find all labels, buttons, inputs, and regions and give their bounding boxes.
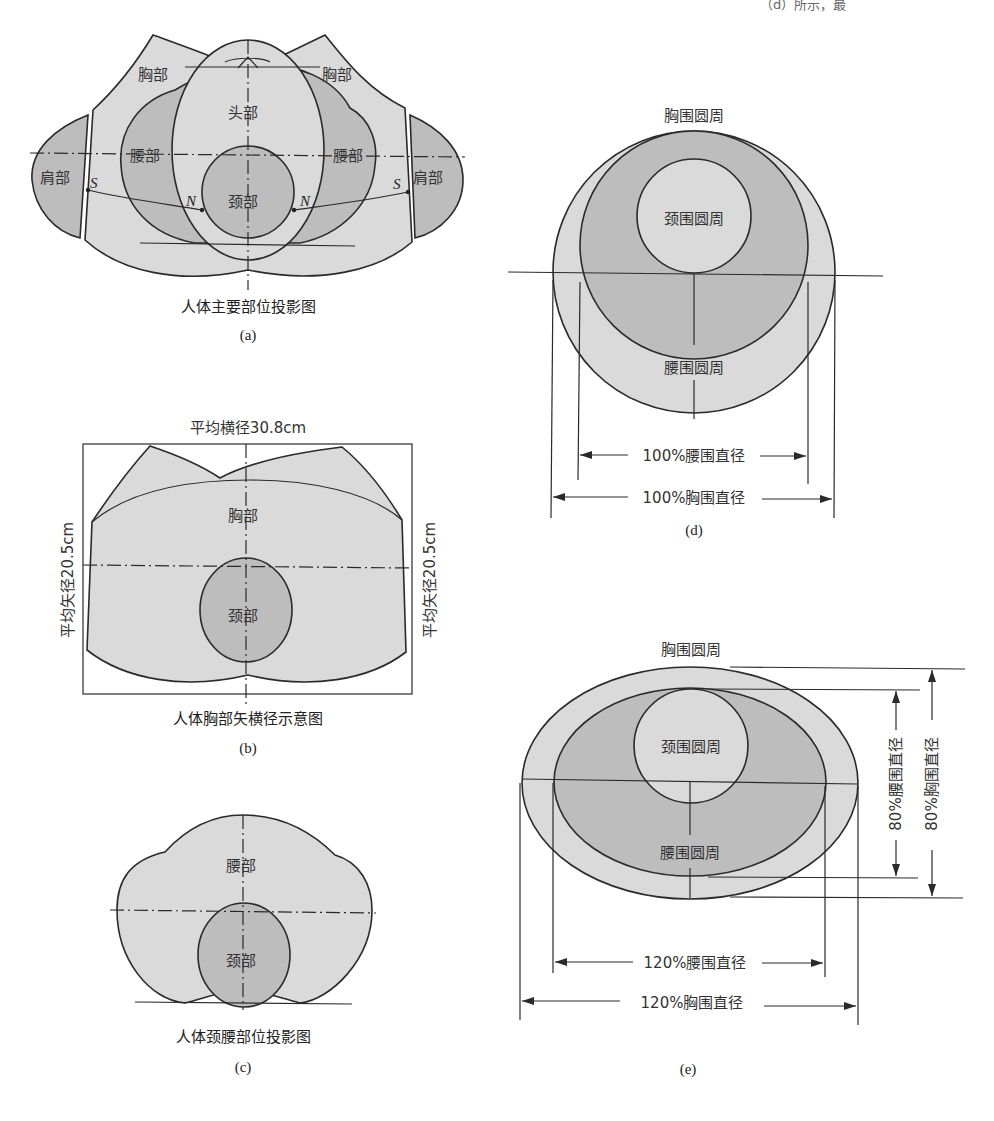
figure-d-circle-model: 胸围圆周 颈围圆周 腰围圆周 100%腰围直径 100%胸围直径 (d) <box>508 107 883 539</box>
tag-e: (e) <box>680 1061 697 1078</box>
label-waist-right: 腰部 <box>333 147 363 165</box>
label-chest-diameter: 100%胸围直径 <box>643 489 746 507</box>
label-avg-sagittal-left: 平均矢径20.5cm <box>59 522 77 638</box>
label-neck: 颈部 <box>228 193 258 211</box>
label-waist-h-diameter: 120%腰围直径 <box>644 954 747 972</box>
label-waist-circle: 腰围圆周 <box>660 844 720 862</box>
label-chest: 胸部 <box>228 507 258 525</box>
figure-a-body-projection: 胸部 胸部 头部 腰部 腰部 肩部 肩部 颈部 S S N N 人体主要部位投影… <box>30 35 465 344</box>
tag-a: (a) <box>240 327 257 344</box>
label-point-s-right: S <box>393 176 401 192</box>
figure-b-chest-diameters: 平均横径30.8cm 平均矢径20.5cm 平均矢径20.5cm 胸部 颈部 人… <box>59 419 439 757</box>
figure-canvas: 胸部 胸部 头部 腰部 腰部 肩部 肩部 颈部 S S N N 人体主要部位投影… <box>0 0 994 1121</box>
label-waist-circle: 腰围圆周 <box>664 359 724 377</box>
label-point-n-left: N <box>185 193 197 209</box>
caption-c: 人体颈腰部位投影图 <box>176 1028 311 1046</box>
label-point-s-left: S <box>90 175 98 191</box>
label-waist-left: 腰部 <box>130 147 160 165</box>
label-avg-transverse-diameter: 平均横径30.8cm <box>190 419 306 437</box>
label-chest-left: 胸部 <box>138 66 168 84</box>
caption-b: 人体胸部矢横径示意图 <box>173 710 323 728</box>
label-point-n-right: N <box>299 193 311 209</box>
tag-b: (b) <box>239 740 257 757</box>
label-chest-circle: 胸围圆周 <box>661 641 721 659</box>
tag-d: (d) <box>685 522 703 539</box>
label-neck: 颈部 <box>226 952 256 970</box>
label-neck-circle: 颈围圆周 <box>664 210 724 228</box>
figure-c-neck-waist-projection: 腰部 颈部 人体颈腰部位投影图 (c) <box>110 815 376 1076</box>
label-avg-sagittal-right: 平均矢径20.5cm <box>421 522 439 638</box>
label-shoulder-left: 肩部 <box>40 169 70 187</box>
label-chest-v-diameter: 80%胸围直径 <box>923 737 941 830</box>
label-waist: 腰部 <box>226 857 256 875</box>
label-neck: 颈部 <box>228 607 258 625</box>
caption-a: 人体主要部位投影图 <box>181 298 316 316</box>
label-chest-right: 胸部 <box>322 66 352 84</box>
label-chest-h-diameter: 120%胸围直径 <box>641 994 744 1012</box>
label-neck-circle: 颈围圆周 <box>661 738 721 756</box>
figure-e-ellipse-model: 80%腰围直径 80%胸围直径 胸围圆周 颈围圆周 腰围圆周 120%腰围直径 … <box>520 641 965 1078</box>
label-waist-v-diameter: 80%腰围直径 <box>887 737 905 830</box>
label-head: 头部 <box>228 104 258 122</box>
tag-c: (c) <box>235 1059 252 1076</box>
label-waist-diameter: 100%腰围直径 <box>643 447 746 465</box>
label-shoulder-right: 肩部 <box>413 169 443 187</box>
label-chest-circle: 胸围圆周 <box>664 107 724 125</box>
